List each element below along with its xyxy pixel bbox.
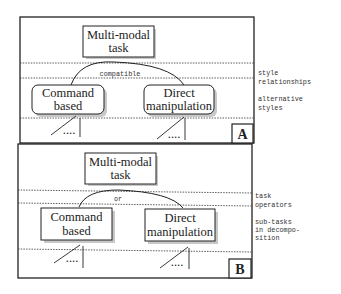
panel-b-child-direct: Direct manipulation bbox=[145, 209, 218, 244]
panel-a-child-direct: Direct manipulation bbox=[144, 85, 217, 117]
svg-text:A: A bbox=[237, 127, 248, 142]
svg-text:manipulation: manipulation bbox=[147, 225, 214, 239]
svg-text:B: B bbox=[235, 262, 244, 277]
svg-text:Direct: Direct bbox=[164, 211, 196, 225]
svg-text:Command: Command bbox=[42, 86, 95, 100]
svg-text:relationships: relationships bbox=[258, 78, 311, 86]
panel-b-divider-2 bbox=[18, 203, 252, 206]
panel-a-subtree-right: .... bbox=[157, 117, 185, 141]
svg-text:sition: sition bbox=[255, 234, 279, 242]
panel-a-subtree-left: .... bbox=[51, 116, 80, 137]
svg-text:styles: styles bbox=[258, 104, 282, 112]
root-label-line1: Multi-modal bbox=[87, 28, 151, 42]
svg-text:....: .... bbox=[168, 127, 181, 141]
panel-a-root-node: Multi-modal task bbox=[83, 26, 156, 59]
panel-b-subtree-left: .... bbox=[54, 245, 83, 268]
panel-b-subtree-right: .... bbox=[160, 247, 189, 269]
panel-b-divider-3 bbox=[18, 249, 252, 252]
operator-label: or bbox=[114, 195, 122, 203]
svg-text:based: based bbox=[54, 99, 83, 113]
side-label-task: task bbox=[255, 192, 271, 200]
panel-a: Multi-modal task compatible Command base… bbox=[20, 17, 311, 143]
panel-a-letter-badge: A bbox=[232, 124, 253, 143]
svg-text:in decompo-: in decompo- bbox=[255, 226, 300, 234]
side-label-subtasks: sub-tasks bbox=[255, 218, 292, 226]
svg-text:operators: operators bbox=[255, 201, 292, 209]
svg-text:Command: Command bbox=[50, 210, 103, 224]
panel-b-root-node: Multi-modal task bbox=[85, 153, 158, 186]
diagram: Multi-modal task compatible Command base… bbox=[0, 0, 341, 294]
svg-text:Multi-modal: Multi-modal bbox=[89, 155, 153, 169]
side-label-alternative: alternative bbox=[258, 95, 303, 103]
panel-b: Multi-modal task or Command based Direct… bbox=[18, 144, 300, 278]
panel-a-child-command: Command based bbox=[32, 85, 107, 117]
svg-text:....: .... bbox=[171, 255, 184, 269]
svg-text:manipulation: manipulation bbox=[146, 99, 213, 113]
svg-text:Direct: Direct bbox=[163, 86, 195, 100]
panel-b-letter-badge: B bbox=[229, 259, 251, 278]
panel-b-child-command: Command based bbox=[41, 208, 115, 243]
side-label-style: style bbox=[258, 69, 278, 77]
relation-label: compatible bbox=[100, 70, 141, 78]
root-label-line2: task bbox=[108, 41, 129, 55]
svg-text:task: task bbox=[110, 168, 131, 182]
svg-text:....: .... bbox=[66, 251, 79, 265]
svg-text:based: based bbox=[62, 224, 91, 238]
svg-text:....: .... bbox=[63, 123, 76, 137]
